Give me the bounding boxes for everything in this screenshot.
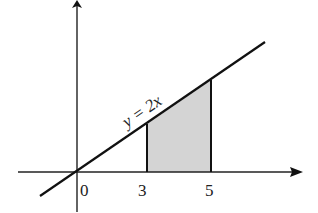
shaded-area [147,80,211,172]
tick-label-3: 3 [138,181,147,200]
line-y-2x [40,42,265,196]
diagram-canvas: y = 2x 0 3 5 [0,0,318,213]
tick-label-5: 5 [205,181,214,200]
tick-label-0: 0 [80,181,89,200]
